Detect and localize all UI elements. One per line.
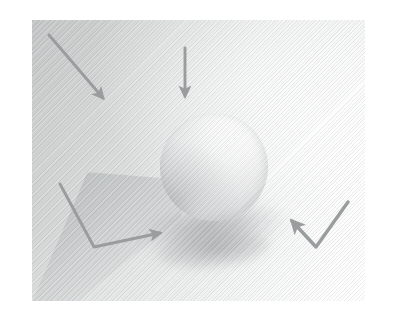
illustration-canvas: Grayscale rendered scene: a matte sphere… <box>0 0 400 324</box>
sphere <box>160 113 268 221</box>
sphere-bounce-light <box>160 113 268 221</box>
rendered-scene-panel <box>32 20 365 301</box>
